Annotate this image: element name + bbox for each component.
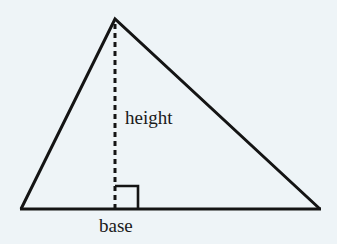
triangle-diagram: height base xyxy=(0,0,337,244)
height-label: height xyxy=(125,108,173,127)
base-label: base xyxy=(99,216,133,235)
right-angle-icon xyxy=(115,186,138,209)
